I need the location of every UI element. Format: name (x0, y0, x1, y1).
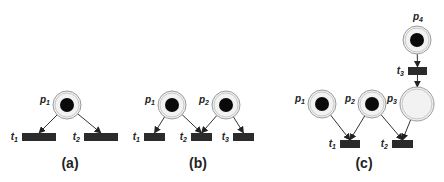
transition-t2 (84, 133, 118, 141)
label-t1: t1 (329, 138, 336, 150)
transition-t3 (408, 67, 427, 75)
label-t1: t1 (133, 131, 140, 143)
label-p4: p4 (412, 11, 423, 23)
captions-layer: (a)(b)(c) (61, 155, 372, 171)
token-icon (165, 98, 179, 112)
transition-t1 (22, 133, 56, 141)
token-icon (410, 33, 424, 47)
caption-a: (a) (61, 155, 78, 171)
label-t1: t1 (11, 131, 18, 143)
place-p3 (400, 87, 434, 121)
label-p1: p1 (39, 94, 50, 106)
label-p3: p3 (386, 93, 397, 105)
transition-t2 (191, 133, 212, 141)
place-p1 (158, 91, 186, 119)
label-p2: p2 (344, 93, 355, 105)
label-t3: t3 (397, 65, 404, 77)
nodes-layer (22, 26, 434, 148)
token-icon (365, 97, 379, 111)
transition-t1 (340, 140, 360, 148)
label-t2: t2 (180, 131, 187, 143)
transition-t2 (392, 140, 413, 148)
arc-p1-to-t1 (155, 117, 165, 133)
token-icon (60, 98, 74, 112)
label-t3: t3 (222, 131, 229, 143)
petri-net-diagram: p1t1t2p1p2t1t2t3p1p2p3p4t1t2t3 (a)(b)(c) (0, 0, 444, 182)
arc-p1-to-t1 (39, 115, 57, 133)
label-t2: t2 (73, 131, 80, 143)
labels-layer: p1t1t2p1p2t1t2t3p1p2p3p4t1t2t3 (11, 11, 423, 150)
label-p2: p2 (198, 94, 209, 106)
arc-p1-to-t1 (331, 115, 350, 140)
arc-p3-to-t2 (403, 120, 411, 140)
token-icon (315, 97, 329, 111)
arc-p2-to-t3 (233, 117, 243, 133)
arc-p2-to-t2 (202, 116, 217, 133)
transition-t1 (144, 133, 165, 141)
arc-p1-to-t2 (182, 115, 201, 133)
arc-p2-to-t1 (350, 116, 365, 140)
transition-t3 (233, 133, 254, 141)
place-p2 (358, 90, 386, 118)
place-p1 (308, 90, 336, 118)
caption-b: (b) (189, 155, 207, 171)
place-circle (400, 87, 434, 121)
token-icon (219, 98, 233, 112)
label-t2: t2 (381, 138, 388, 150)
caption-c: (c) (355, 155, 372, 171)
arc-p1-to-t2 (78, 114, 101, 133)
arc-p2-to-t2 (381, 115, 402, 140)
place-p4 (403, 26, 431, 54)
label-p1: p1 (294, 93, 305, 105)
label-p1: p1 (144, 94, 155, 106)
place-p1 (53, 91, 81, 119)
place-p2 (212, 91, 240, 119)
